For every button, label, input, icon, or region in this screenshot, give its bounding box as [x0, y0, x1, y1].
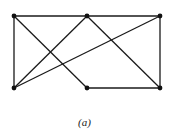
- figure-caption: (a): [0, 116, 169, 128]
- vertex-TL: [12, 14, 17, 19]
- vertex-BM: [85, 86, 90, 91]
- vertex-BL: [12, 86, 17, 91]
- edge-TR-BL: [14, 16, 160, 88]
- vertex-TM: [85, 14, 90, 19]
- vertex-TR: [158, 14, 163, 19]
- graph-edges: [14, 16, 160, 88]
- edge-TM-BR: [87, 16, 160, 88]
- vertex-BR: [158, 86, 163, 91]
